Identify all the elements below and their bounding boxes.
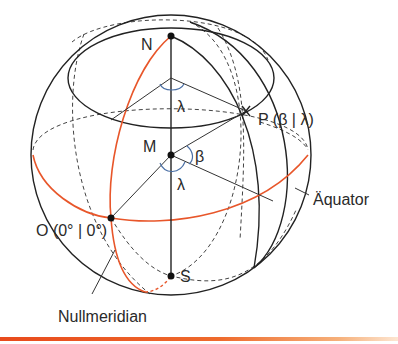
prime-meridian-back: [145, 276, 171, 292]
meridian-back-dashed-left: [73, 34, 150, 294]
label-center: M: [143, 138, 156, 155]
label-lambda-center: λ: [177, 176, 185, 193]
line-top-to-left: [111, 78, 171, 120]
label-origin: O (0° | 0°): [36, 222, 107, 239]
lambda-arc-top: [160, 84, 184, 90]
lambda-arc-center: [160, 162, 185, 172]
nullmeridian-pointer: [92, 250, 115, 294]
north-pole-dot: [168, 33, 175, 40]
beta-arc: [187, 146, 193, 164]
sphere-diagram: N M S λ λ β P (β | λ) O (0° | 0°) Äquato…: [0, 0, 398, 344]
label-nullmeridian: Nullmeridian: [58, 308, 147, 325]
label-equator: Äquator: [313, 191, 370, 208]
label-north: N: [141, 36, 153, 53]
origin-dot: [108, 215, 115, 222]
line-m-to-o: [111, 155, 171, 218]
center-dot: [168, 152, 175, 159]
meridian-through-p: [171, 36, 259, 268]
label-point-p: P (β | λ): [258, 111, 314, 128]
label-beta: β: [195, 148, 204, 165]
label-south: S: [180, 268, 191, 285]
bottom-accent-bar: [0, 337, 398, 341]
south-pole-dot: [168, 273, 175, 280]
line-m-to-p: [171, 111, 246, 155]
label-lambda-top: λ: [177, 98, 185, 115]
